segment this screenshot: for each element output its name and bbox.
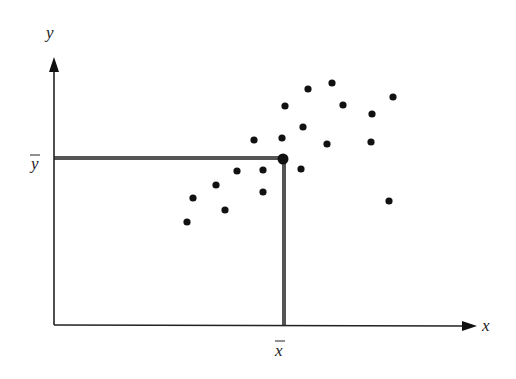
data-point	[221, 206, 228, 213]
data-point	[367, 138, 374, 145]
data-point	[297, 165, 304, 172]
data-point	[212, 181, 219, 188]
scatter-diagram: y x y x	[0, 0, 516, 379]
x-bar-text: x	[274, 341, 283, 360]
y-bar-label: y	[29, 154, 40, 173]
x-axis	[54, 325, 465, 326]
data-point	[189, 194, 196, 201]
x-axis-arrow-icon	[462, 321, 477, 331]
mean-point	[278, 154, 289, 165]
y-axis-label: y	[44, 23, 54, 42]
y-axis-arrow-icon	[49, 57, 59, 72]
data-point	[183, 218, 190, 225]
data-point	[323, 140, 330, 147]
data-point	[259, 188, 266, 195]
data-point	[233, 167, 240, 174]
y-bar-text: y	[29, 154, 39, 173]
data-point	[385, 197, 392, 204]
data-point	[304, 85, 311, 92]
data-points	[183, 79, 396, 225]
data-point	[259, 166, 266, 173]
x-bar-label: x	[274, 341, 285, 360]
data-point	[339, 101, 346, 108]
data-point	[281, 102, 288, 109]
data-point	[250, 136, 257, 143]
data-point	[389, 93, 396, 100]
data-point	[278, 134, 285, 141]
data-point	[328, 79, 335, 86]
data-point	[368, 110, 375, 117]
x-axis-label: x	[481, 316, 490, 335]
data-point	[299, 123, 306, 130]
